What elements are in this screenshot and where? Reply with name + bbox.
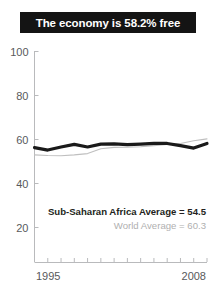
- x-axis: 1995 2008: [35, 258, 208, 282]
- x-axis-end-label: 2008: [182, 270, 206, 282]
- y-axis-tick-label: 40: [16, 178, 28, 190]
- annotation-world-average: World Average = 60.3: [114, 220, 206, 231]
- y-axis: 10080604020: [10, 46, 38, 263]
- chart-plot-area: 10080604020 1995 2008 Sub-Saharan Africa…: [0, 0, 216, 301]
- annotation-region-average: Sub-Saharan Africa Average = 54.5: [48, 206, 207, 217]
- y-axis-tick-label: 100: [10, 46, 28, 58]
- y-axis-tick-label: 80: [16, 90, 28, 102]
- y-axis-tick-labels: 10080604020: [10, 46, 28, 234]
- data-series-group: [35, 139, 208, 156]
- x-axis-start-label: 1995: [36, 270, 60, 282]
- x-axis-ticks: [35, 258, 208, 262]
- y-axis-tick-label: 20: [16, 222, 28, 234]
- y-axis-tick-label: 60: [16, 134, 28, 146]
- y-axis-ticks: [35, 52, 39, 228]
- economic-freedom-chart-card: The economy is 58.2% free 10080604020 19…: [0, 0, 216, 301]
